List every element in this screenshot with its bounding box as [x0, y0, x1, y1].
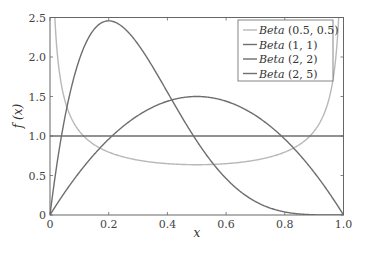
y-tick-label: 2.5	[29, 12, 47, 25]
y-tick-label: 0.5	[29, 170, 47, 183]
x-tick-label: 0.4	[159, 218, 177, 231]
legend-entry: Beta (1, 1)	[258, 39, 318, 52]
y-tick-label: 2.0	[29, 51, 47, 64]
y-axis-label: f (x)	[11, 103, 25, 129]
legend-entry: Beta (2, 5)	[258, 68, 318, 81]
legend-entry: Beta (2, 2)	[258, 53, 318, 66]
x-tick-label: 0.2	[100, 218, 118, 231]
x-tick-label: 0.8	[276, 218, 294, 231]
x-tick-label: 1.0	[335, 218, 353, 231]
legend: Beta (0.5, 0.5)Beta (1, 1)Beta (2, 2)Bet…	[238, 20, 339, 81]
y-tick-label: 1.5	[29, 91, 47, 104]
x-axis-label: x	[194, 226, 201, 240]
x-tick-label: 0.6	[217, 218, 235, 231]
series-line-2	[50, 97, 344, 216]
x-tick-label: 0	[47, 218, 54, 231]
y-tick-label: 1.0	[29, 130, 47, 143]
y-tick-label: 0	[39, 209, 46, 222]
beta-distribution-chart: 00.20.40.60.81.0 00.51.01.52.02.5 x f (x…	[0, 0, 365, 254]
legend-entry: Beta (0.5, 0.5)	[258, 24, 339, 37]
